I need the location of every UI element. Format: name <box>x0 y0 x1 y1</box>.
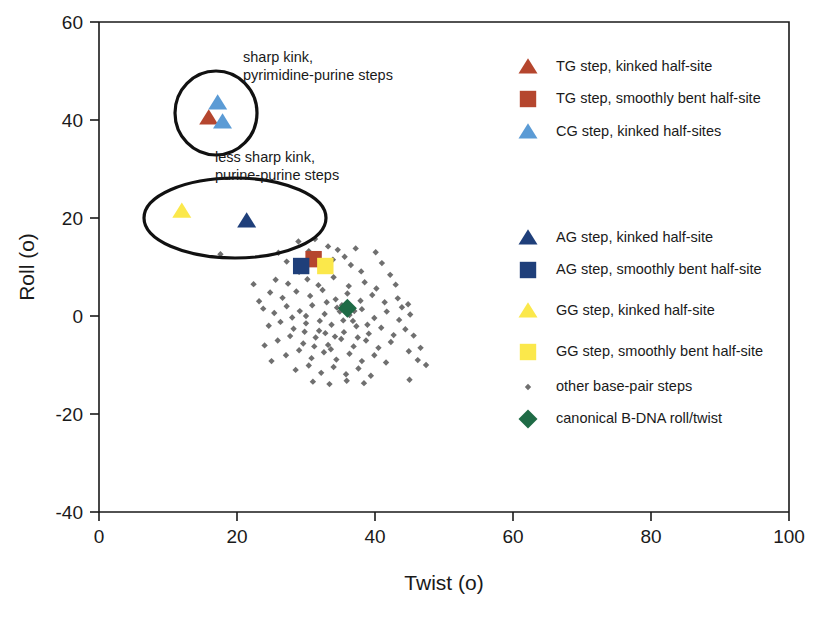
data-point <box>326 381 332 387</box>
legend-bdna-marker <box>519 410 538 429</box>
data-point <box>277 319 283 325</box>
data-point <box>363 337 369 343</box>
data-point <box>308 355 314 361</box>
data-point <box>322 330 328 336</box>
data-point <box>324 299 330 305</box>
data-point <box>316 328 322 334</box>
series-highlighted-markers <box>172 94 357 318</box>
y-tick-label-60: 60 <box>62 12 83 33</box>
data-point <box>396 317 402 323</box>
x-tick-label-60: 60 <box>502 526 523 547</box>
data-point <box>260 305 266 311</box>
legend-ag-kinked[interactable]: AG step, kinked half-site <box>519 229 714 245</box>
data-point <box>266 323 272 329</box>
y-tick-label-40: 40 <box>62 110 83 131</box>
data-point <box>341 254 347 260</box>
legend-bdna-label: canonical B-DNA roll/twist <box>556 410 722 426</box>
legend-other-steps[interactable]: other base-pair steps <box>525 378 692 394</box>
data-point <box>368 373 374 379</box>
data-point <box>325 243 331 249</box>
roll-vs-twist-scatter: 020406080100-40-200204060Twist (o)Roll (… <box>0 0 818 617</box>
legend-tg-kinked[interactable]: TG step, kinked half-site <box>519 58 713 74</box>
data-point <box>296 347 302 353</box>
data-point <box>292 367 298 373</box>
legend-gg-kinked-marker <box>519 302 538 317</box>
legend-ag-smooth-label: AG step, smoothly bent half-site <box>556 261 762 277</box>
data-point <box>310 378 316 384</box>
data-point <box>346 283 352 289</box>
data-point <box>340 317 346 323</box>
legend-bdna[interactable]: canonical B-DNA roll/twist <box>519 410 723 429</box>
legend-tg-kinked-label: TG step, kinked half-site <box>556 58 712 74</box>
data-point <box>366 330 372 336</box>
data-point <box>384 308 390 314</box>
legend-ag-smooth[interactable]: AG step, smoothly bent half-site <box>520 261 762 278</box>
data-point <box>407 311 413 317</box>
data-point <box>303 313 309 319</box>
data-point <box>312 334 318 340</box>
data-point <box>330 364 336 370</box>
data-point <box>415 357 421 363</box>
data-point <box>208 94 227 109</box>
data-point <box>268 358 274 364</box>
data-point <box>267 289 273 295</box>
legend-gg-smooth-marker <box>520 344 536 360</box>
x-tick-label-100: 100 <box>773 526 805 547</box>
data-point <box>355 365 361 371</box>
data-point <box>375 345 381 351</box>
data-point <box>293 288 299 294</box>
data-point <box>330 274 336 280</box>
legend-gg-smooth[interactable]: GG step, smoothly bent half-site <box>520 343 763 360</box>
data-point <box>350 343 356 349</box>
legend-other-steps-marker <box>525 384 531 390</box>
data-point <box>395 295 401 301</box>
data-point <box>423 362 429 368</box>
sharp-kink-label: sharp kink,pyrimidine-purine steps <box>243 49 393 83</box>
data-point <box>350 318 356 324</box>
data-point <box>172 202 191 217</box>
data-point <box>381 299 387 305</box>
data-point <box>361 279 367 285</box>
data-point <box>287 333 293 339</box>
data-point <box>364 322 370 328</box>
data-point <box>378 325 384 331</box>
y-axis-title: Roll (o) <box>15 233 38 301</box>
data-point <box>290 326 296 332</box>
data-point <box>410 332 416 338</box>
data-point <box>301 328 307 334</box>
data-point <box>379 260 385 266</box>
legend-ag-smooth-marker <box>520 262 536 278</box>
data-point <box>371 315 377 321</box>
data-point <box>358 268 364 274</box>
legend-cg-kinked[interactable]: CG step, kinked half-sites <box>519 123 722 139</box>
data-point <box>335 247 341 253</box>
y-tick-label--20: -20 <box>56 404 83 425</box>
scatter-plot-figure: 020406080100-40-200204060Twist (o)Roll (… <box>0 0 818 617</box>
data-point <box>373 285 379 291</box>
sharp-kink-circle <box>175 71 257 155</box>
data-point <box>261 342 267 348</box>
less-sharp-kink-ellipse <box>144 178 326 258</box>
data-point <box>319 287 325 293</box>
data-point <box>250 281 256 287</box>
data-point <box>283 258 289 264</box>
data-point <box>272 277 278 283</box>
legend-gg-kinked[interactable]: GG step, kinked half-site <box>519 302 715 318</box>
data-point <box>321 349 327 355</box>
data-point <box>283 352 289 358</box>
data-point <box>338 299 357 318</box>
legend-tg-smooth[interactable]: TG step, smoothly bent half-site <box>520 90 761 107</box>
data-point <box>307 293 313 299</box>
data-point <box>237 212 256 227</box>
data-point <box>297 308 303 314</box>
data-point <box>300 340 306 346</box>
legend: TG step, kinked half-siteTG step, smooth… <box>519 58 764 429</box>
data-point <box>199 109 218 124</box>
data-point <box>341 329 347 335</box>
legend-other-steps-label: other base-pair steps <box>556 378 692 394</box>
data-point <box>371 352 377 358</box>
data-point <box>357 298 363 304</box>
data-point <box>344 290 350 296</box>
x-tick-label-20: 20 <box>226 526 247 547</box>
data-point <box>315 282 321 288</box>
